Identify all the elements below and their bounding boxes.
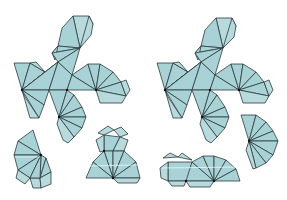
left-net-lower-left-fan xyxy=(14,130,51,188)
left-net-lower-right-cluster xyxy=(86,126,140,183)
right-net-bottom-cluster xyxy=(160,153,240,187)
right-net-right-fan xyxy=(241,115,278,169)
polyhedron-nets-diagram xyxy=(0,0,287,200)
nets-canvas xyxy=(0,0,287,200)
left-net-main-piece xyxy=(14,16,130,143)
